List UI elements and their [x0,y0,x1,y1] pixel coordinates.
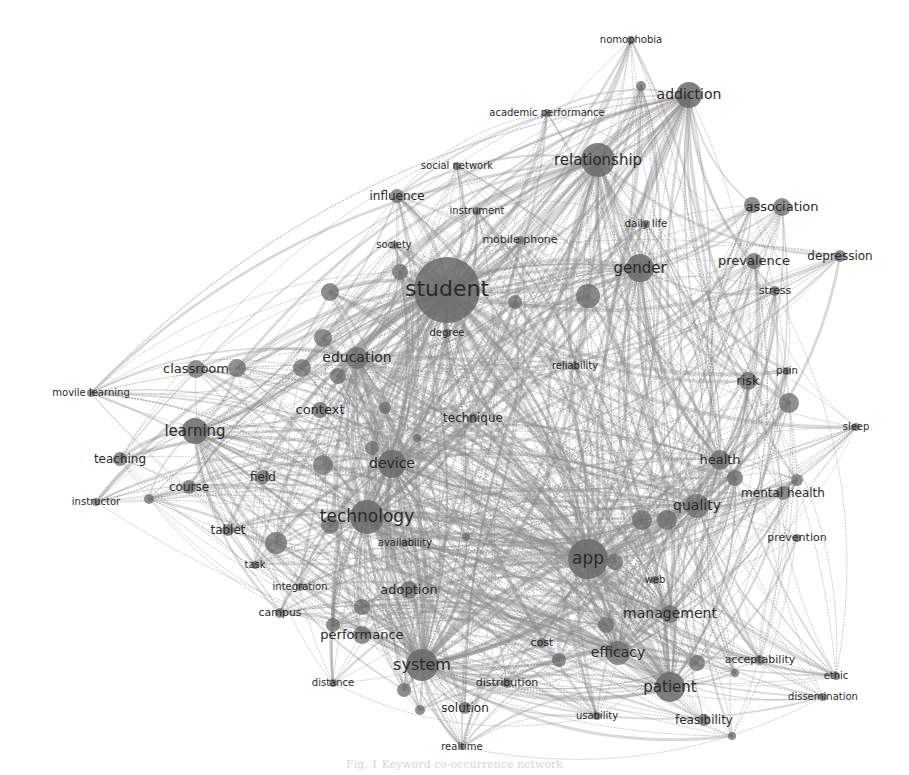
network-edge [462,697,823,759]
node-label-system: system [393,655,451,674]
node-unlabeled [607,554,623,570]
node-label-management: management [623,605,717,621]
node-unlabeled [144,494,154,504]
node-label-movile-learning: movile learning [52,387,129,398]
node-label-app: app [572,548,604,568]
node-label-dissemination: dissemination [788,691,858,702]
node-unlabeled [779,393,799,413]
node-label-pain: pain [776,365,798,376]
node-unlabeled [321,283,339,301]
node-label-patient: patient [643,678,696,696]
node-unlabeled [727,470,743,486]
node-label-technology: technology [320,506,414,526]
node-unlabeled [598,617,614,633]
keyword-network-diagram: studentrelationshipaddictionnomophobiaac… [0,0,909,775]
node-label-society: society [376,239,412,250]
node-label-relationship: relationship [554,151,642,169]
node-unlabeled [293,359,311,377]
node-label-gender: gender [613,259,667,277]
node-label-usability: usability [576,710,618,721]
node-label-prevalence: prevalence [718,253,790,268]
node-unlabeled [508,295,522,309]
node-label-health: health [699,452,740,467]
node-unlabeled [228,359,246,377]
node-label-distribution: distribution [476,676,539,689]
node-label-tablet: tablet [210,523,245,537]
node-label-instrument: instrument [450,205,505,216]
node-label-task: task [244,559,265,570]
node-label-ethic: ethic [824,670,849,681]
node-label-influence: influence [369,189,424,203]
node-unlabeled [413,434,421,442]
network-edges [91,40,856,759]
node-unlabeled [728,732,736,740]
node-label-field: field [250,470,276,484]
node-label-mental-health: mental health [741,486,825,500]
node-label-distance: distance [312,677,354,688]
node-label-addiction: addiction [657,86,722,102]
node-unlabeled [330,368,346,384]
node-label-solution: solution [441,701,489,715]
node-unlabeled [354,599,370,615]
node-unlabeled [415,705,425,715]
node-label-association: association [745,199,818,214]
node-label-realtime: realtime [441,741,483,752]
node-label-classroom: classroom [163,361,229,376]
node-label-quality: quality [673,497,721,513]
node-label-stress: stress [759,284,792,297]
node-unlabeled [379,402,391,414]
node-unlabeled [731,669,739,677]
node-label-integration: integration [273,581,328,592]
node-label-campus: campus [258,606,301,619]
network-edge [735,473,797,480]
network-edge [689,95,754,261]
node-unlabeled [791,474,803,486]
node-unlabeled [632,510,652,530]
node-label-depression: depression [807,249,872,263]
node-label-web: web [645,574,666,585]
node-unlabeled [689,655,705,671]
node-label-acceptability: acceptability [725,653,796,666]
node-label-course: course [169,480,209,494]
figure-caption: Fig. 1 Keyword co-occurrence network [0,758,909,771]
node-label-academic-performance: academic performance [489,107,605,118]
node-label-instructor: instructor [72,496,121,507]
node-label-adoption: adoption [380,582,437,597]
node-label-daily-life: daily life [625,218,667,229]
node-label-risk: risk [736,373,760,388]
node-label-device: device [369,455,415,471]
node-label-degree: degree [429,327,464,338]
node-label-nomophobia: nomophobia [600,34,662,45]
node-unlabeled [657,510,677,530]
node-unlabeled [576,284,600,308]
node-unlabeled [636,81,646,91]
node-unlabeled [462,533,470,541]
node-label-performance: performance [320,627,403,642]
node-unlabeled [397,683,411,697]
node-label-availability: availability [378,537,432,548]
node-label-learning: learning [164,422,225,440]
node-label-social-network: social network [421,160,494,171]
node-label-technique: technique [443,411,503,425]
node-label-education: education [322,349,391,365]
node-label-cost: cost [531,636,555,649]
node-label-efficacy: efficacy [591,644,645,660]
node-unlabeled [265,532,287,554]
node-label-feasibility: feasibility [675,713,733,727]
node-unlabeled [365,441,379,455]
node-label-prevention: prevention [767,531,826,544]
node-unlabeled [313,455,333,475]
node-label-context: context [296,402,345,417]
node-unlabeled [314,329,332,347]
node-label-reliability: reliability [552,360,598,371]
node-label-mobile-phone: mobile phone [482,233,557,246]
node-unlabeled [552,653,566,667]
node-label-student: student [405,276,489,301]
node-label-teaching: teaching [94,452,146,466]
node-label-sleep: sleep [843,421,870,432]
